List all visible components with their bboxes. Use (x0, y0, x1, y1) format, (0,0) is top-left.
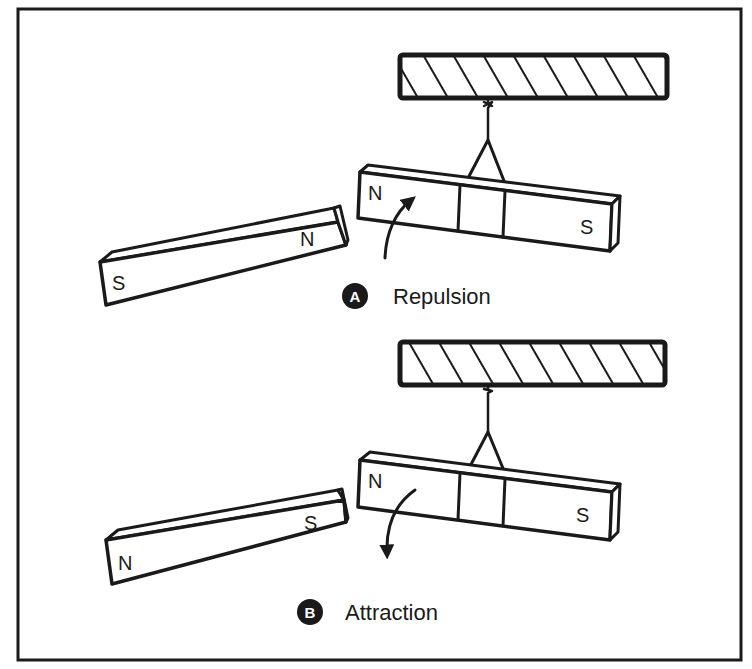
pole-label-n: N (300, 228, 314, 250)
pole-label-n: N (368, 470, 382, 492)
pole-label-s: S (304, 512, 317, 534)
suspended-magnet: N S (358, 452, 620, 540)
free-magnet: N S (106, 489, 348, 584)
ceiling-support (400, 55, 667, 98)
ceiling-support (400, 342, 665, 385)
panel-repulsion: N S S N A Repulsion (100, 55, 667, 309)
pole-label-s: S (576, 504, 589, 526)
badge-letter: A (350, 288, 361, 305)
pole-label-n: N (118, 552, 132, 574)
pole-label-s: S (112, 272, 125, 294)
free-magnet: S N (100, 206, 348, 305)
badge-letter: B (305, 604, 316, 621)
panel-label-repulsion: A Repulsion (342, 283, 491, 309)
magnet-diagram: N S S N A Repulsion (0, 0, 752, 669)
panel-label-attraction: B Attraction (297, 599, 438, 625)
pole-label-s: S (580, 216, 593, 238)
pole-label-n: N (368, 182, 382, 204)
label-text: Repulsion (393, 284, 491, 309)
suspension-string (466, 98, 506, 186)
panel-attraction: N S N S B Attraction (106, 342, 665, 625)
suspended-magnet: N S (358, 165, 620, 251)
label-text: Attraction (345, 600, 438, 625)
